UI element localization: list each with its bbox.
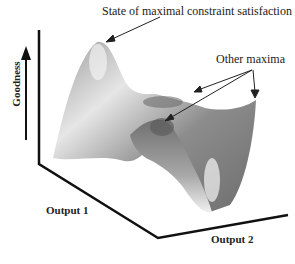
global-maximum-label: State of maximal constraint satisfaction <box>102 4 292 19</box>
output-2-axis-label: Output 2 <box>211 233 254 245</box>
goodness-axis-label: Goodness <box>10 54 22 114</box>
goodness-landscape-diagram <box>0 0 295 264</box>
other-maxima-label: Other maxima <box>216 52 285 67</box>
output-1-axis-label: Output 1 <box>46 204 89 216</box>
up-arrow-icon <box>21 46 31 60</box>
